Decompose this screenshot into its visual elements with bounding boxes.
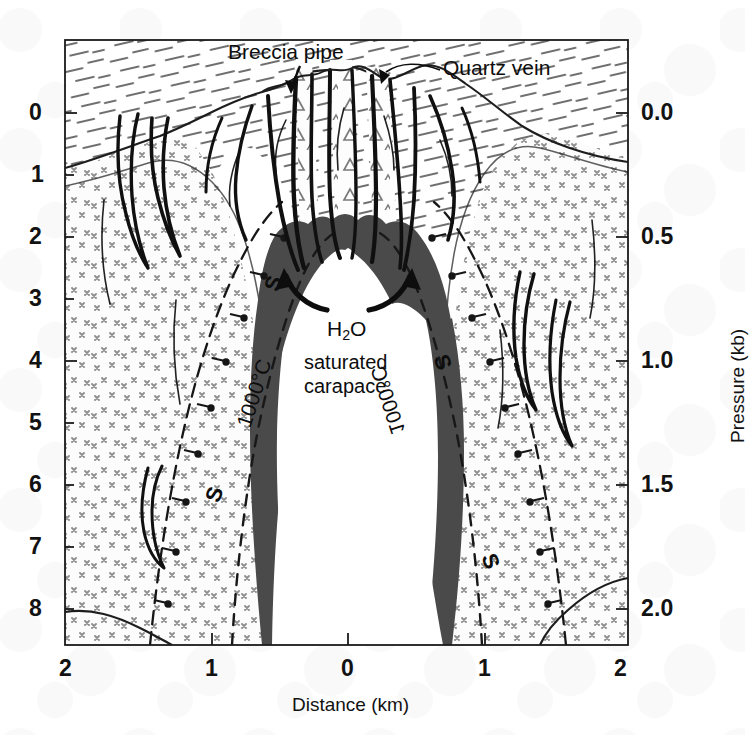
quartz-vein-label: Quartz vein [443,57,550,79]
left-tick-2: 2 [29,223,42,250]
left-tick-4: 4 [29,347,42,374]
h2o-o: O [350,317,366,340]
breccia-pipe-label: Breccia pipe [228,41,344,63]
h2o-h: H [327,317,342,340]
right-axis-title: Pressure (kb) [727,329,749,443]
bottom-axis-title: Distance (km) [292,694,409,716]
left-tick-0: 0 [29,99,42,126]
right-tick-4: 2.0 [641,595,674,622]
h2o-label: H2O [327,318,366,343]
right-tick-3: 1.5 [641,471,674,498]
right-tick-2: 1.0 [641,347,674,374]
left-tick-8: 8 [29,595,42,622]
left-tick-7: 7 [29,533,42,560]
right-tick-0: 0.0 [641,99,674,126]
left-tick-5: 5 [29,409,42,436]
right-tick-1: 0.5 [641,223,674,250]
left-tick-1: 1 [31,161,44,188]
bottom-tick-2: 0 [341,655,354,682]
left-tick-3: 3 [29,285,42,312]
left-tick-6: 6 [29,471,42,498]
bottom-tick-3: 1 [478,655,491,682]
bottom-tick-0: 2 [59,655,72,682]
h2o-subscript: 2 [342,327,350,343]
bottom-tick-4: 2 [614,655,627,682]
bottom-tick-1: 1 [205,655,218,682]
